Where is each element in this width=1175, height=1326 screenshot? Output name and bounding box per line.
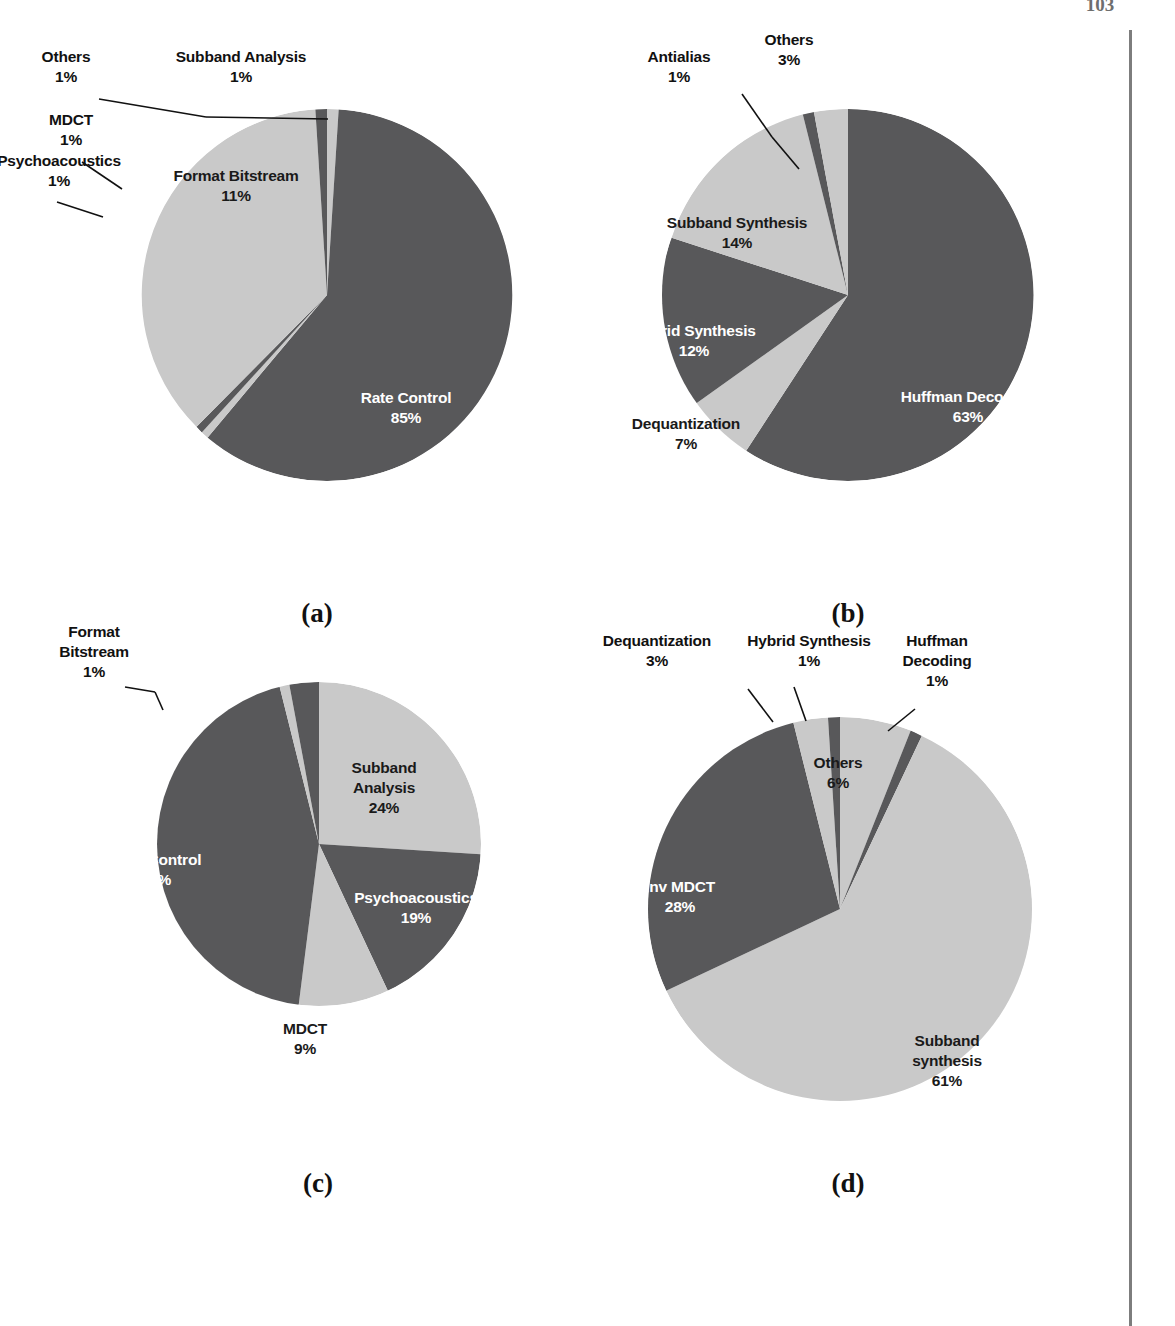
page-right-rule (1129, 30, 1132, 1326)
label-a-subband-pct: 1% (162, 67, 320, 87)
label-c-psychoacoustics: Psychoacoustics 19% (347, 888, 485, 928)
panel-a: Others 1% Subband Analysis 1% MDCT 1% Ps… (0, 0, 560, 660)
leader-hybrid-d (794, 687, 806, 721)
label-b-hybrid-name: Hybrid Synthesis (619, 321, 769, 341)
label-b-huffman-decoding: Huffman Decoding 63% (892, 387, 1044, 427)
label-c-mdct-pct: 9% (270, 1039, 340, 1059)
caption-c: (c) (258, 1168, 378, 1199)
label-d-subband-synthesis: Subband synthesis 61% (898, 1031, 996, 1090)
label-a-mdct-name: MDCT (36, 110, 106, 130)
label-b-dequantization: Dequantization 7% (616, 414, 756, 454)
label-a-format-name: Format Bitstream (161, 166, 311, 186)
label-a-others-name: Others (20, 47, 112, 67)
label-b-dequant-pct: 7% (616, 434, 756, 454)
label-c-format-name1: Format (45, 622, 143, 642)
label-b-others: Others 3% (743, 30, 835, 70)
label-d-huffman-name2: Decoding (888, 651, 986, 671)
pie-chart-b: Antialias 1% Others 3% Subband Synthesis… (662, 109, 1034, 481)
label-b-hybrid-pct: 12% (619, 341, 769, 361)
label-c-subband-name2: Analysis (335, 778, 433, 798)
label-d-huffman-pct: 1% (888, 671, 986, 691)
label-d-dequant-name: Dequantization (587, 631, 727, 651)
label-b-huffman-pct: 63% (892, 407, 1044, 427)
label-c-mdct-name: MDCT (270, 1019, 340, 1039)
label-d-subband-name2: synthesis (898, 1051, 996, 1071)
leader-psycho-a (57, 202, 103, 217)
panel-b: Antialias 1% Others 3% Subband Synthesis… (560, 0, 1120, 660)
label-b-subband-pct: 14% (658, 233, 816, 253)
label-c-format-bitstream: Format Bitstream 1% (45, 622, 143, 681)
label-a-rate-name: Rate Control (347, 388, 465, 408)
label-b-antialias-pct: 1% (633, 67, 725, 87)
label-c-subband-analysis: Subband Analysis 24% (335, 758, 433, 817)
label-d-hybrid-synthesis: Hybrid Synthesis 1% (736, 631, 882, 671)
label-d-subband-name1: Subband (898, 1031, 996, 1051)
leader-format-c (125, 687, 155, 692)
label-c-rate-control: Rate Control 44% (97, 850, 215, 890)
label-b-antialias-name: Antialias (633, 47, 725, 67)
label-d-hybrid-name: Hybrid Synthesis (736, 631, 882, 651)
pie-c-svg (157, 682, 481, 1006)
label-d-others: Others 6% (803, 753, 873, 793)
label-a-format-pct: 11% (161, 186, 311, 206)
label-d-others-pct: 6% (803, 773, 873, 793)
label-b-antialias: Antialias 1% (633, 47, 725, 87)
label-a-mdct-pct: 1% (36, 130, 106, 150)
label-d-inv-mdct: Inv MDCT 28% (625, 877, 735, 917)
label-a-rate-pct: 85% (347, 408, 465, 428)
pie-chart-a: Others 1% Subband Analysis 1% MDCT 1% Ps… (141, 109, 513, 481)
label-c-format-pct: 1% (45, 662, 143, 682)
label-a-psychoacoustics: Psychoacoustics 1% (0, 151, 125, 191)
caption-a: (a) (257, 598, 377, 629)
pie-chart-d: Dequantization 3% Hybrid Synthesis 1% Hu… (648, 717, 1032, 1101)
label-d-dequantization: Dequantization 3% (587, 631, 727, 671)
label-d-hybrid-pct: 1% (736, 651, 882, 671)
label-a-subband-name: Subband Analysis (162, 47, 320, 67)
label-d-invmdct-name: Inv MDCT (625, 877, 735, 897)
label-a-psycho-pct: 1% (0, 171, 125, 191)
label-d-dequant-pct: 3% (587, 651, 727, 671)
label-d-huffman-decoding: Huffman Decoding 1% (888, 631, 986, 690)
label-d-invmdct-pct: 28% (625, 897, 735, 917)
label-b-others-name: Others (743, 30, 835, 50)
leader-dequant-d (748, 689, 773, 722)
label-c-psycho-pct: 19% (347, 908, 485, 928)
label-d-subband-pct: 61% (898, 1071, 996, 1091)
label-b-others-pct: 3% (743, 50, 835, 70)
label-d-huffman-name1: Huffman (888, 631, 986, 651)
label-a-format-bitstream: Format Bitstream 11% (161, 166, 311, 206)
label-c-rate-name: Rate Control (97, 850, 215, 870)
pie-c-slices (157, 682, 481, 1006)
figure-grid: Others 1% Subband Analysis 1% MDCT 1% Ps… (0, 0, 1120, 1326)
label-a-others-pct: 1% (20, 67, 112, 87)
label-a-subband-analysis: Subband Analysis 1% (162, 47, 320, 87)
label-b-dequant-name: Dequantization (616, 414, 756, 434)
label-b-subband-synthesis: Subband Synthesis 14% (658, 213, 816, 253)
label-a-psycho-name: Psychoacoustics (0, 151, 125, 171)
label-d-others-name: Others (803, 753, 873, 773)
caption-b: (b) (788, 598, 908, 629)
caption-d: (d) (788, 1168, 908, 1199)
label-c-rate-pct: 44% (97, 870, 215, 890)
label-b-huffman-name: Huffman Decoding (892, 387, 1044, 407)
label-c-mdct: MDCT 9% (270, 1019, 340, 1059)
pie-chart-c: Format Bitstream 1% Subband Analysis 24%… (157, 682, 481, 1006)
label-b-hybrid-synthesis: Hybrid Synthesis 12% (619, 321, 769, 361)
label-c-subband-name1: Subband (335, 758, 433, 778)
label-b-subband-name: Subband Synthesis (658, 213, 816, 233)
panel-d: Dequantization 3% Hybrid Synthesis 1% Hu… (560, 660, 1120, 1220)
label-a-mdct: MDCT 1% (36, 110, 106, 150)
panel-c: Format Bitstream 1% Subband Analysis 24%… (0, 660, 560, 1220)
leader-others-a (99, 99, 206, 117)
label-c-psycho-name: Psychoacoustics (347, 888, 485, 908)
label-a-rate-control: Rate Control 85% (347, 388, 465, 428)
label-c-subband-pct: 24% (335, 798, 433, 818)
leader-format-c2 (155, 692, 163, 710)
label-c-format-name2: Bitstream (45, 642, 143, 662)
label-a-others: Others 1% (20, 47, 112, 87)
